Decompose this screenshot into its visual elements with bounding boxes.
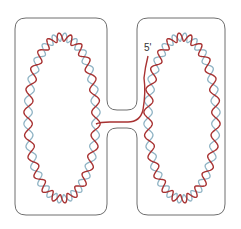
dna-loop-diagram bbox=[0, 0, 241, 229]
five-prime-label: 5' bbox=[144, 42, 151, 53]
connecting-strand bbox=[96, 56, 148, 124]
left-loop bbox=[24, 33, 100, 203]
right-loop bbox=[144, 33, 220, 203]
